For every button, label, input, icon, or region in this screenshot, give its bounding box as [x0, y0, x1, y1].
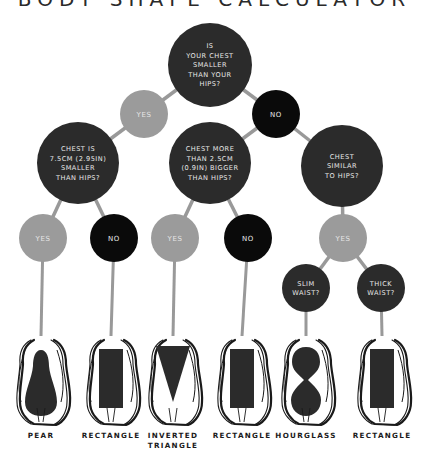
- node-text-line: SLIM: [297, 280, 315, 288]
- answer-node-a-right-yes: YES: [319, 214, 367, 262]
- node-text-line: WAIST?: [292, 289, 319, 297]
- result-label-line2: TRIANGLE: [133, 441, 213, 451]
- node-text-line: HIPS?: [199, 80, 220, 88]
- answer-node-a-left-yes: YES: [19, 214, 67, 262]
- answer-node-a-mid-no: NO: [224, 214, 272, 262]
- answer-label: YES: [167, 235, 183, 243]
- result-label-inverted-triangle: INVERTEDTRIANGLE: [133, 431, 213, 451]
- node-circle: [357, 264, 405, 312]
- node-text-line: CHEST IS: [61, 145, 95, 153]
- nodes: ISYOUR CHESTSMALLERTHAN YOURHIPS?YESNOCH…: [19, 23, 405, 312]
- answer-node-a-root-yes: YES: [120, 90, 168, 138]
- node-circle: [169, 122, 251, 204]
- question-node-q-mid: CHEST MORETHAN 2.5CM(0.9IN) BIGGERTHAN H…: [169, 122, 251, 204]
- question-node-q-left: CHEST IS7.5CM (2.95IN)SMALLERTHAN HIPS?: [37, 122, 119, 204]
- figure-shape-inverted-triangle: [156, 346, 190, 402]
- node-text-line: THAN 2.5CM: [186, 155, 233, 163]
- figure-shape-pear: [25, 350, 57, 416]
- node-text-line: IS: [206, 42, 213, 50]
- result-label-rectangle: RECTANGLE: [342, 431, 422, 441]
- node-text-line: THAN HIPS?: [55, 174, 100, 182]
- answer-label: YES: [136, 111, 152, 119]
- body-figure-pear-icon: [17, 340, 70, 425]
- node-text-line: SIMILAR: [327, 162, 357, 170]
- answer-node-a-left-no: NO: [90, 214, 138, 262]
- answer-label: NO: [108, 235, 120, 243]
- figure-shape-rectangle: [230, 349, 254, 408]
- figure-shape-rectangle: [99, 349, 123, 408]
- node-text-line: THAN HIPS?: [187, 174, 232, 182]
- answer-node-a-root-no: NO: [252, 90, 300, 138]
- node-text-line: (0.9IN) BIGGER: [181, 164, 238, 172]
- answer-label: NO: [270, 111, 282, 119]
- answer-node-a-mid-yes: YES: [151, 214, 199, 262]
- body-figure-hourglass-icon: [282, 340, 335, 425]
- result-label-line1: PEAR: [1, 431, 81, 441]
- body-figure-rectangle-icon: [218, 340, 271, 425]
- answer-label: YES: [35, 235, 51, 243]
- node-text-line: SMALLER: [61, 164, 95, 172]
- node-text-line: CHEST: [330, 153, 355, 161]
- figure-legs: [378, 408, 386, 422]
- figure-shape-rectangle: [370, 349, 394, 408]
- node-text-line: CHEST MORE: [186, 145, 235, 153]
- answer-label: NO: [242, 235, 254, 243]
- figure-legs: [169, 408, 177, 422]
- body-figure-rectangle-icon: [358, 340, 411, 425]
- result-label-pear: PEAR: [1, 431, 81, 441]
- result-label-line1: HOURGLASS: [266, 431, 346, 441]
- node-text-line: SMALLER: [193, 61, 227, 69]
- question-node-q-root: ISYOUR CHESTSMALLERTHAN YOURHIPS?: [168, 23, 252, 107]
- figure-legs: [238, 408, 246, 422]
- body-figure-rectangle-icon: [87, 340, 140, 425]
- node-text-line: TO HIPS?: [324, 172, 359, 180]
- result-label-line1: RECTANGLE: [342, 431, 422, 441]
- flowchart: ISYOUR CHESTSMALLERTHAN YOURHIPS?YESNOCH…: [0, 0, 429, 461]
- question-node-q-right: CHESTSIMILARTO HIPS?: [301, 125, 383, 207]
- figures: [17, 340, 411, 425]
- node-text-line: YOUR CHEST: [185, 52, 234, 60]
- node-text-line: 7.5CM (2.95IN): [50, 155, 107, 163]
- result-label-hourglass: HOURGLASS: [266, 431, 346, 441]
- figure-legs: [107, 408, 115, 422]
- answer-label: YES: [335, 235, 351, 243]
- result-label-line1: INVERTED: [133, 431, 213, 441]
- node-text-line: THICK: [369, 280, 393, 288]
- question-node-q-thick: THICKWAIST?: [357, 264, 405, 312]
- node-circle: [282, 264, 330, 312]
- body-figure-inverted-triangle-icon: [149, 340, 202, 425]
- node-text-line: THAN YOUR: [187, 71, 231, 79]
- figure-shape-hourglass: [291, 347, 321, 416]
- node-text-line: WAIST?: [367, 289, 394, 297]
- question-node-q-slim: SLIMWAIST?: [282, 264, 330, 312]
- node-circle: [37, 122, 119, 204]
